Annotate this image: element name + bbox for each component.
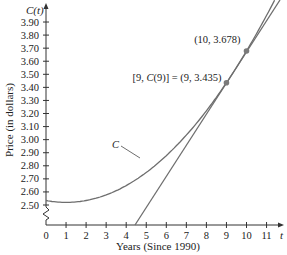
annotations: (10, 3.678)[9, C(9)] = (9, 3.435)C <box>112 34 249 158</box>
x-tick-label: 0 <box>43 230 48 241</box>
x-tick-label: 8 <box>204 230 209 241</box>
y-tick-label: 3.80 <box>21 30 39 41</box>
label-point-9: [9, C(9)] = (9, 3.435) <box>132 72 222 84</box>
curve-label-leader <box>121 146 140 158</box>
y-tick-label: 3.50 <box>21 69 39 80</box>
x-tick-label: 1 <box>63 230 68 241</box>
x-tick-label: 10 <box>241 230 252 241</box>
y-tick-label: 3.30 <box>21 95 39 106</box>
y-tick-label: 3.10 <box>21 121 39 132</box>
x-tick-label: 2 <box>83 230 88 241</box>
y-axis-variable: C(t) <box>26 4 44 17</box>
tangent-line-chart: 2.502.602.702.802.903.003.103.203.303.40… <box>0 0 287 255</box>
x-axis-title: Years (Since 1990) <box>116 240 200 253</box>
x-tick-label: 11 <box>261 230 271 241</box>
y-tick-label: 2.90 <box>21 147 39 158</box>
y-tick-label: 3.90 <box>21 17 39 28</box>
x-axis-arrow <box>278 223 284 228</box>
x-tick-label: 3 <box>104 230 109 241</box>
y-tick-label: 3.00 <box>21 134 39 145</box>
y-axis-break <box>43 207 49 225</box>
y-axis-arrow <box>44 3 49 9</box>
x-tick-label: 9 <box>224 230 229 241</box>
y-tick-label: 2.50 <box>21 200 39 211</box>
y-tick-label: 2.80 <box>21 160 39 171</box>
y-tick-label: 3.60 <box>21 56 39 67</box>
curve-c <box>46 0 275 202</box>
y-tick-label: 3.20 <box>21 108 39 119</box>
y-axis-title: Price (in dollars) <box>3 83 16 157</box>
y-tick-label: 3.70 <box>21 43 39 54</box>
x-axis-variable: t <box>280 229 284 241</box>
point-t10 <box>244 48 250 54</box>
y-tick-label: 2.60 <box>21 186 39 197</box>
curve-label-c: C <box>112 139 120 150</box>
y-tick-label: 2.70 <box>21 173 39 184</box>
y-tick-label: 3.40 <box>21 82 39 93</box>
axes <box>43 3 284 228</box>
label-point-10: (10, 3.678) <box>194 34 241 46</box>
series <box>46 0 280 225</box>
point-t9 <box>224 80 230 86</box>
